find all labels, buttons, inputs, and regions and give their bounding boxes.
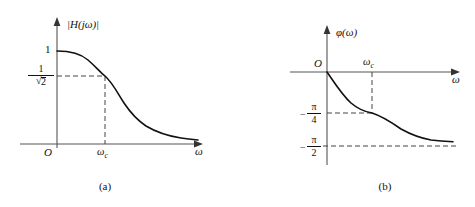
- y-tick-label-one: 1: [45, 44, 51, 55]
- y-axis-group: [54, 17, 61, 148]
- fraction-denominator: 4: [307, 114, 321, 125]
- origin-label: O: [44, 147, 52, 158]
- y-axis-label-magnitude: |H(jω)|: [67, 19, 99, 30]
- minus-sign: −: [300, 110, 306, 120]
- y-axis-group: [324, 25, 331, 165]
- y-axis-arrowhead: [324, 25, 331, 34]
- panel-caption-a: (a): [75, 180, 135, 192]
- magnitude-curve: [57, 51, 198, 140]
- panel-caption-b: (b): [355, 180, 415, 192]
- square-root-group: √ 2: [36, 77, 46, 87]
- x-tick-label-omega-c: ωc: [363, 57, 374, 70]
- fraction-numerator: π: [307, 102, 321, 113]
- origin-label: O: [314, 58, 322, 69]
- omega-subscript: c: [104, 151, 107, 160]
- y-tick-label-minus-pi-over-two: − π 2: [307, 135, 321, 158]
- fraction-numerator: 1: [28, 64, 54, 75]
- fraction-denominator: √ 2: [28, 76, 54, 87]
- y-axis-label-phase: φ(ω): [336, 27, 357, 38]
- x-tick-label-omega-c: ωc: [97, 147, 108, 160]
- y-tick-label-one-over-root-two: 1 √ 2: [28, 64, 54, 87]
- figure-root: |H(jω)| ω O 1 1 √ 2 ωc (a): [0, 0, 475, 207]
- fraction-numerator: π: [307, 135, 321, 146]
- y-tick-label-minus-pi-over-four: − π 4: [307, 102, 321, 125]
- panel-phase-response: φ(ω) ω O ωc − π 4 − π 2 (b): [235, 0, 475, 207]
- y-axis-arrowhead: [54, 17, 61, 26]
- x-axis-label-omega: ω: [452, 74, 460, 85]
- x-axis-label-omega: ω: [195, 146, 203, 157]
- panel-magnitude-response: |H(jω)| ω O 1 1 √ 2 ωc (a): [0, 0, 240, 207]
- magnitude-plot-svg: [0, 0, 240, 207]
- radical-vinculum: [41, 77, 46, 78]
- minus-sign: −: [300, 143, 306, 153]
- fraction-denominator: 2: [307, 147, 321, 158]
- phase-curve: [327, 72, 453, 142]
- omega-subscript: c: [370, 61, 373, 70]
- x-axis-group: [290, 69, 460, 76]
